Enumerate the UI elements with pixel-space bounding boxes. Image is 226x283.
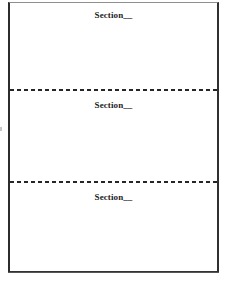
scanned-page: Section__ Section__ Section__	[0, 0, 226, 283]
section-panel-1[interactable]: Section__	[10, 3, 217, 89]
section-label-1: Section__	[10, 10, 217, 21]
scan-artifact-speck	[0, 127, 2, 131]
section-panel-3[interactable]: Section__	[10, 181, 217, 272]
section-label-3: Section__	[10, 192, 217, 203]
section-label-2: Section__	[10, 100, 217, 111]
section-panel-2[interactable]: Section__	[10, 89, 217, 181]
form-outline: Section__ Section__ Section__	[8, 2, 219, 273]
